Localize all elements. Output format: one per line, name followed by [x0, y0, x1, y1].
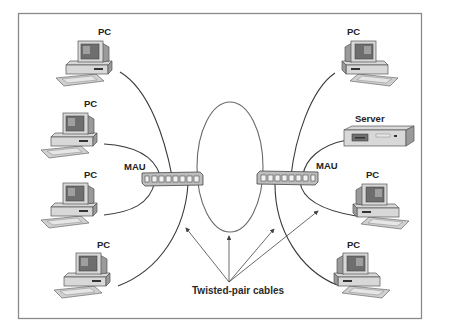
twisted-pair-caption: Twisted-pair cables: [192, 285, 285, 296]
pc-right-1-label: PC: [347, 26, 360, 37]
pc-left-2-label: PC: [84, 98, 97, 109]
mau-right: [257, 171, 318, 185]
mau-left: [142, 172, 203, 186]
mau-left-label: MAU: [124, 161, 146, 172]
mau-right-label: MAU: [316, 160, 338, 171]
server-label: Server: [355, 113, 385, 124]
server: [344, 126, 414, 146]
pc-right-3-label: PC: [347, 239, 360, 250]
token-ring-diagram: MAU MAU PC PC PC PC PC: [0, 0, 458, 333]
pc-left-4-label: PC: [97, 239, 110, 250]
pc-left-1-label: PC: [98, 26, 111, 37]
pc-right-2-label: PC: [366, 169, 379, 180]
pc-left-3-label: PC: [84, 169, 97, 180]
